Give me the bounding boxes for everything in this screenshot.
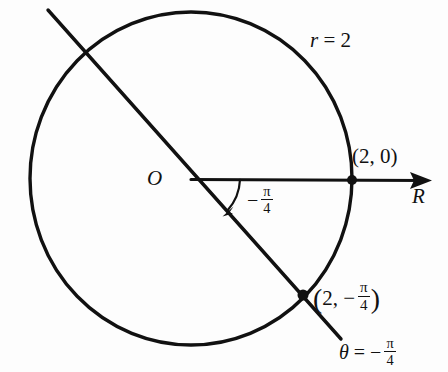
- theta-denominator: 4: [384, 352, 395, 368]
- origin-label: O: [147, 168, 162, 189]
- point-label-2-minus-pi-over-4: (2, −π4): [313, 283, 380, 317]
- point-minus-sign: −: [343, 286, 355, 310]
- radius-label: r = 2: [310, 30, 351, 51]
- radius-variable: r: [310, 28, 318, 52]
- theta-equation-label: θ = −π4: [339, 338, 397, 370]
- point-radius-value: 2,: [322, 286, 338, 310]
- point-angle-denominator: 4: [358, 297, 370, 314]
- polar-axis-label: R: [412, 186, 425, 207]
- point-marker-2-minus-pi-over-4: [298, 290, 309, 301]
- point-marker-2-0: [347, 175, 357, 185]
- point-angle-numerator: π: [358, 280, 370, 297]
- right-parenthesis: ): [371, 285, 380, 313]
- angle-fraction: π4: [261, 184, 272, 216]
- angle-minus-sign: −: [247, 189, 258, 211]
- theta-fraction: π4: [384, 336, 395, 368]
- polar-diagram-figure: r = 2 O (2, 0) R −π4 (2, −π4) θ = −π4: [0, 0, 448, 372]
- theta-numerator: π: [384, 336, 395, 352]
- diagram-canvas: [0, 0, 448, 372]
- theta-equals-sign: =: [354, 341, 365, 363]
- point-angle-fraction: π4: [358, 280, 370, 314]
- angle-value-label: −π4: [247, 186, 274, 218]
- theta-symbol: θ: [339, 341, 349, 363]
- point-label-2-0: (2, 0): [352, 146, 398, 167]
- ray-theta-minus-pi-over-4: [48, 10, 341, 339]
- left-parenthesis: (: [313, 285, 322, 313]
- angle-arc: [228, 180, 241, 211]
- polar-axis-line: [191, 180, 424, 181]
- radius-equals-sign: =: [323, 28, 335, 52]
- radius-value: 2: [341, 28, 352, 52]
- theta-minus-sign: −: [370, 341, 381, 363]
- angle-denominator: 4: [261, 200, 272, 216]
- angle-numerator: π: [261, 184, 272, 200]
